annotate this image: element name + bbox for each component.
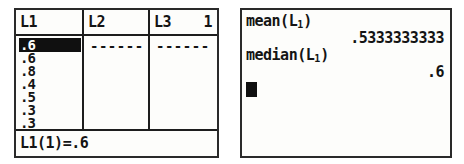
list-editor-screen[interactable]: L1 L2 L3 1 .6 .6 .8 .4 .5 — [14, 8, 219, 158]
column-header-l3[interactable]: L3 1 — [150, 10, 217, 34]
home-screen-inner: mean(L1) .5333333333 median(L1) .6 — [246, 13, 446, 153]
column-header-l1[interactable]: L1 — [16, 10, 84, 34]
home-entry-median-tail: ) — [320, 46, 329, 64]
list-empty-placeholder-l2: ------ — [84, 40, 148, 53]
text-cursor — [246, 82, 257, 97]
list-cell-l1-8[interactable]: .7 — [16, 130, 82, 131]
home-entry-median-base: median(L — [246, 46, 314, 64]
list-editor-header-row: L1 L2 L3 1 — [16, 10, 217, 36]
home-screen[interactable]: mean(L1) .5333333333 median(L1) .6 — [240, 8, 452, 158]
column-header-l2-label: L2 — [88, 15, 105, 30]
home-entry-mean-tail: ) — [303, 12, 312, 30]
column-header-l3-label: L3 — [154, 15, 171, 30]
list-column-l2[interactable]: ------ — [84, 36, 150, 129]
home-entry-mean-base: mean(L — [246, 12, 297, 30]
list-editor-status-line[interactable]: L1(1)=.6 — [16, 131, 217, 156]
screenshot-root: L1 L2 L3 1 .6 .6 .8 .4 .5 — [0, 0, 464, 164]
column-header-l2[interactable]: L2 — [84, 10, 150, 34]
home-entry-median: median(L1) — [246, 47, 446, 64]
active-column-number: 1 — [203, 15, 212, 30]
list-column-l3[interactable]: ------ — [150, 36, 217, 129]
column-header-l1-label: L1 — [20, 15, 37, 30]
list-editor-inner: L1 L2 L3 1 .6 .6 .8 .4 .5 — [16, 10, 217, 156]
list-editor-body: .6 .6 .8 .4 .5 .3 .3 .7 ------ ------ — [16, 36, 217, 131]
list-empty-placeholder-l3: ------ — [150, 40, 217, 53]
list-column-l1[interactable]: .6 .6 .8 .4 .5 .3 .3 .7 — [16, 36, 84, 129]
home-answer-mean: .5333333333 — [246, 30, 446, 47]
status-line-text: L1(1)=.6 — [20, 136, 88, 151]
home-entry-mean: mean(L1) — [246, 13, 446, 30]
home-answer-median: .6 — [246, 64, 446, 81]
